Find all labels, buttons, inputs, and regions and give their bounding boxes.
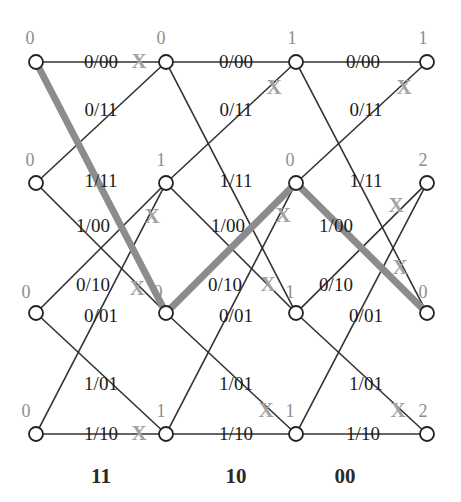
state-metric: 0 [154, 282, 163, 303]
state-metric: 0 [26, 150, 35, 171]
state-metric: 1 [157, 401, 166, 422]
branch-label: 1/11 [349, 170, 382, 192]
pruned-branch-mark: X [388, 193, 403, 218]
branch-label: 0/10 [76, 274, 110, 296]
trellis-node [289, 55, 303, 69]
branch-label: 1/01 [84, 373, 118, 395]
state-metric: 0 [157, 28, 166, 49]
state-metric: 1 [286, 282, 295, 303]
branch-label: 0/11 [84, 99, 117, 121]
branch-label: 0/00 [219, 51, 253, 73]
state-metric: 0 [419, 282, 428, 303]
pruned-branch-mark: X [392, 255, 407, 280]
branch-label: 1/11 [84, 170, 117, 192]
branch-label: 0/01 [84, 305, 118, 327]
branch-label: 0/11 [349, 99, 382, 121]
pruned-branch-mark: X [390, 398, 405, 423]
pruned-branch-mark: X [396, 75, 411, 100]
branch-label: 0/11 [219, 99, 252, 121]
branch-label: 1/01 [349, 373, 383, 395]
branch-label: 1/11 [219, 170, 252, 192]
pruned-branch-mark: X [266, 75, 281, 100]
branch-label: 0/00 [346, 51, 380, 73]
state-metric: 1 [288, 28, 297, 49]
pruned-branch-mark: X [260, 272, 275, 297]
trellis-node [420, 306, 434, 320]
trellis-node [159, 306, 173, 320]
state-metric: 2 [419, 150, 428, 171]
state-metric: 0 [286, 150, 295, 171]
trellis-diagram: 0000010110111202 0/000/000/000/110/110/1… [0, 0, 461, 502]
state-metric: 0 [22, 282, 31, 303]
trellis-node [289, 427, 303, 441]
pruned-branch-mark: X [129, 276, 144, 301]
state-metric: 1 [286, 401, 295, 422]
branch-label: 1/00 [76, 215, 110, 237]
state-metric: 2 [419, 401, 428, 422]
pruned-branch-mark: X [131, 49, 146, 74]
trellis-node [159, 427, 173, 441]
branch-label: 1/10 [84, 423, 118, 445]
pruned-branch-mark: X [144, 204, 159, 229]
trellis-node [159, 176, 173, 190]
pruned-branch-mark: X [258, 398, 273, 423]
branch-label: 0/01 [219, 305, 253, 327]
state-metric: 0 [26, 28, 35, 49]
received-codeword: 00 [335, 464, 356, 489]
branch-label: 1/10 [346, 423, 380, 445]
branch-label: 1/10 [219, 423, 253, 445]
branch-label: 1/00 [211, 215, 245, 237]
trellis-node [29, 306, 43, 320]
branch-label: 1/00 [319, 215, 353, 237]
branch-label: 0/10 [208, 274, 242, 296]
pruned-branch-mark: X [275, 203, 290, 228]
branch-label: 0/10 [319, 274, 353, 296]
trellis-node [29, 55, 43, 69]
received-codeword: 10 [226, 464, 247, 489]
state-metric: 1 [157, 150, 166, 171]
trellis-node [420, 55, 434, 69]
branch-label: 1/01 [219, 373, 253, 395]
pruned-branch-mark: X [131, 421, 146, 446]
branch-label: 0/00 [84, 51, 118, 73]
trellis-node [420, 176, 434, 190]
trellis-node [159, 55, 173, 69]
branch-label: 0/01 [349, 305, 383, 327]
trellis-node [420, 427, 434, 441]
trellis-node [29, 427, 43, 441]
trellis-node [29, 176, 43, 190]
received-codeword: 11 [91, 464, 111, 489]
trellis-node [289, 306, 303, 320]
trellis-node [289, 176, 303, 190]
state-metric: 0 [22, 401, 31, 422]
state-metric: 1 [419, 28, 428, 49]
